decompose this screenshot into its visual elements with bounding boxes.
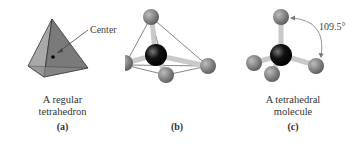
caption-a-line2: tetrahedron xyxy=(0,106,125,118)
outer-atom-top xyxy=(273,9,289,25)
panel-label-a: (a) xyxy=(0,121,125,132)
panel-label-b: (b) xyxy=(122,121,232,132)
panel-b-molecule-in-tetrahedron: (b) xyxy=(125,0,235,146)
center-point xyxy=(51,55,55,59)
outer-atom-right xyxy=(200,58,216,74)
outer-atom-left xyxy=(125,55,133,71)
outer-atom-left xyxy=(246,55,262,71)
bond-angle-annotation: 109.5° xyxy=(319,21,346,32)
caption-c-line1: A tetrahedral xyxy=(229,94,357,106)
outer-atom-front xyxy=(158,67,174,83)
panel-label-c: (c) xyxy=(229,121,357,132)
panel-a-tetrahedron: Center A regular tetrahedron (a) xyxy=(0,0,125,146)
outer-atom-right xyxy=(308,58,324,74)
center-annotation: Center xyxy=(90,24,117,35)
outer-atom-top xyxy=(143,9,159,25)
caption-c-line2: molecule xyxy=(229,106,357,118)
central-atom xyxy=(145,44,167,66)
bond-angle-arc xyxy=(291,18,322,57)
outer-atom-front xyxy=(264,66,280,82)
caption-a-line1: A regular xyxy=(0,94,125,106)
panel-c-tetrahedral-molecule: 109.5° A tetrahedral molecule (c) xyxy=(235,0,363,146)
central-atom xyxy=(270,44,292,66)
